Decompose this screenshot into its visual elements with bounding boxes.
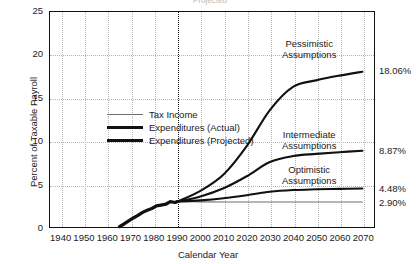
x-tick-label: 2040	[283, 232, 304, 243]
legend-label: Tax Income	[149, 109, 198, 120]
x-tick-label: 1970	[120, 232, 141, 243]
x-tick-label: 1990	[166, 232, 187, 243]
end-label: 4.48%	[379, 183, 406, 194]
y-tick-label: 20	[0, 48, 43, 59]
end-label: 8.87%	[379, 145, 406, 156]
legend-item: Tax Income	[107, 108, 254, 121]
x-tick-label: 2030	[260, 232, 281, 243]
x-tick-label: 1980	[143, 232, 164, 243]
x-tick-label: 1950	[73, 232, 94, 243]
legend-swatch-icon	[107, 139, 143, 141]
annotation-pessimistic: PessimisticAssumptions	[282, 38, 336, 60]
annotation-line: Pessimistic	[282, 38, 336, 49]
legend-swatch-icon	[107, 114, 143, 115]
clipped-title: Projected	[150, 0, 270, 6]
annotation-line: Assumptions	[282, 175, 336, 186]
annotation-line: Optimistic	[282, 164, 336, 175]
legend-label: Expenditures (Projected)	[149, 135, 254, 146]
y-tick-label: 25	[0, 5, 43, 16]
x-tick-label: 2000	[190, 232, 211, 243]
chart-figure: Projected Percent of Taxable Payroll 051…	[0, 0, 416, 264]
legend: Tax IncomeExpenditures (Actual)Expenditu…	[107, 108, 254, 147]
y-axis: Percent of Taxable Payroll 0510152025	[0, 0, 49, 264]
x-axis-title: Calendar Year	[0, 249, 416, 260]
legend-swatch-icon	[107, 126, 143, 129]
x-tick-label: 2060	[329, 232, 350, 243]
y-tick-label: 10	[0, 135, 43, 146]
legend-label: Expenditures (Actual)	[149, 122, 240, 133]
annotation-line: Intermediate	[282, 129, 336, 140]
x-tick-label: 2020	[236, 232, 257, 243]
x-tick-label: 1960	[97, 232, 118, 243]
x-tick-label: 2010	[213, 232, 234, 243]
annotation-optimistic: OptimisticAssumptions	[282, 164, 336, 186]
x-tick-label: 1940	[50, 232, 71, 243]
series-line	[119, 202, 177, 227]
legend-item: Expenditures (Projected)	[107, 134, 254, 147]
y-axis-title: Percent of Taxable Payroll	[28, 47, 39, 217]
annotation-line: Assumptions	[282, 49, 336, 60]
x-axis-tick-labels: 1940195019601970198019902000201020202030…	[49, 232, 375, 246]
y-tick-label: 5	[0, 179, 43, 190]
x-tick-label: 2070	[353, 232, 374, 243]
y-tick-label: 0	[0, 222, 43, 233]
y-tick-label: 15	[0, 92, 43, 103]
end-label: 2.90%	[379, 197, 406, 208]
annotation-line: Assumptions	[282, 140, 336, 151]
annotation-intermediate: IntermediateAssumptions	[282, 129, 336, 151]
plot-area: PessimisticAssumptions IntermediateAssum…	[49, 11, 375, 228]
legend-item: Expenditures (Actual)	[107, 121, 254, 134]
end-label: 18.06%	[379, 65, 411, 76]
x-tick-label: 2050	[306, 232, 327, 243]
